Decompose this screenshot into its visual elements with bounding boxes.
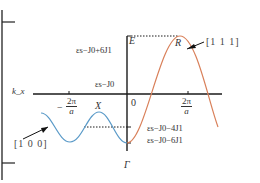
tick-label-pos-2pi-a: 2π a — [181, 97, 192, 116]
label-energy-4j1: εs−J0−4J1 — [147, 124, 183, 133]
label-point-gamma: Γ — [124, 160, 130, 170]
label-point-r: R — [175, 38, 181, 48]
tick-label-neg-2pi-a: 2π a — [66, 97, 77, 116]
arrow-100-head — [41, 127, 48, 133]
label-direction-111: [1 1 1] — [206, 37, 240, 47]
tick-label-den: a — [184, 107, 189, 116]
label-energy-mid: εs−J0 — [95, 80, 114, 89]
label-e-axis: E — [129, 36, 135, 46]
arrow-111-head — [187, 44, 196, 49]
label-point-x: X — [95, 101, 101, 111]
label-origin: 0 — [131, 98, 136, 108]
label-k-axis: k_x — [12, 87, 25, 96]
band-structure-diagram — [0, 0, 260, 183]
label-minus-sign: − — [57, 103, 63, 113]
tick-label-den: a — [69, 107, 74, 116]
label-energy-top: εs−J0+6J1 — [76, 46, 112, 55]
label-energy-6j1: εs−J0−6J1 — [147, 136, 183, 145]
label-direction-100: [1 0 0] — [14, 139, 48, 149]
